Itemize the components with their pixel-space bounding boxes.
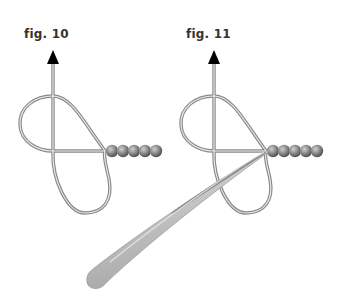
wire-knot-11 <box>181 50 323 213</box>
wire-knot-10 <box>20 50 162 213</box>
figure-11 <box>181 50 323 213</box>
tweezers-icon <box>87 151 268 289</box>
knot-diagram <box>0 0 343 300</box>
figure-10 <box>20 50 162 213</box>
